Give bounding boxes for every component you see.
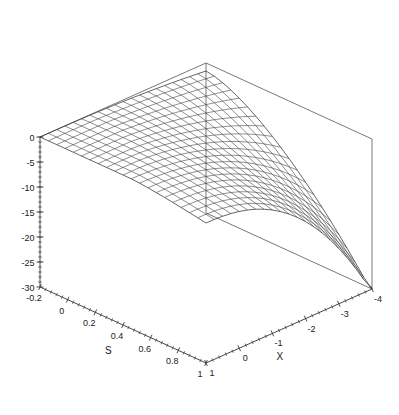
- axis-tick-label: 0: [59, 306, 64, 316]
- axis-tick-label: -4: [374, 294, 382, 304]
- axis-tick-label: 0.2: [83, 318, 96, 328]
- s-axis-title: S: [105, 345, 112, 356]
- axis-tick-label: -15: [21, 208, 34, 218]
- axis-tick-label: -10: [21, 183, 34, 193]
- axis-tick-label: -20: [21, 233, 34, 243]
- axis-tick-label: -25: [21, 258, 34, 268]
- axis-tick-label: 0.4: [111, 331, 124, 341]
- axis-tick-label: -3: [341, 309, 349, 319]
- surface-plot-figure: 0-5-10-15-20-25-30-0.200.20.40.60.81S10-…: [0, 0, 399, 415]
- axis-tick-label: -2: [308, 324, 316, 334]
- axis-tick-label: 0.6: [138, 344, 151, 354]
- plot-background: [0, 0, 399, 415]
- axis-tick-label: -1: [274, 338, 282, 348]
- axis-tick-label: -0.2: [26, 293, 42, 303]
- axis-tick-label: -5: [26, 158, 34, 168]
- x-axis-title: X: [276, 351, 283, 362]
- axis-tick-label: 0: [29, 133, 34, 143]
- axis-tick-label: 0.8: [166, 356, 179, 366]
- axis-tick-label: 1: [197, 369, 202, 379]
- axis-tick-label: 0: [243, 353, 248, 363]
- plot-canvas: 0-5-10-15-20-25-30-0.200.20.40.60.81S10-…: [0, 0, 399, 415]
- axis-tick-label: -30: [21, 283, 34, 293]
- axis-tick-label: 1: [209, 368, 214, 378]
